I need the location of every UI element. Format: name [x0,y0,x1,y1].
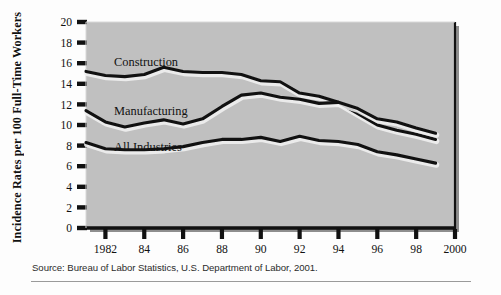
source-note: Source: Bureau of Labor Statistics, U.S.… [32,262,318,273]
chart-figure: Incidence Rates per 100 Full-Time Worker… [0,0,501,295]
x-tick-label: 2000 [443,243,466,256]
x-tick-label: 86 [177,243,189,256]
x-tick-label: 90 [255,243,267,256]
y-tick-label: 20 [60,16,72,29]
y-tick-label: 16 [60,57,72,70]
x-tick-label: 94 [333,243,345,256]
x-tick-mark [259,229,263,239]
x-tick-label: 98 [410,243,422,256]
y-tick-label: 10 [60,119,72,132]
y-axis-ticks: 02468101214161820 [60,16,87,235]
y-tick-label: 2 [66,202,72,215]
x-tick-mark [375,229,379,239]
y-tick-label: 18 [60,37,72,50]
x-axis-ticks: 198284868890929496982000 [94,229,467,256]
series-label-construction: Construction [114,55,178,69]
x-tick-mark [336,229,340,239]
y-tick-label: 0 [66,222,72,235]
y-tick-label: 12 [60,99,72,112]
y-tick-label: 8 [66,140,72,153]
x-tick-mark [142,229,146,239]
x-tick-label: 88 [216,243,228,256]
x-tick-label: 92 [294,243,306,256]
x-tick-mark [181,229,185,239]
source-divider [31,281,471,282]
y-tick-label: 14 [60,78,72,91]
x-tick-mark [103,229,107,239]
y-tick-label: 4 [66,181,72,194]
x-tick-label: 1982 [94,243,117,256]
series-label-all-industries: All Industries [114,140,182,154]
x-tick-mark [220,229,224,239]
series-label-manufacturing: Manufacturing [114,104,188,118]
x-tick-label: 84 [138,243,150,256]
x-tick-mark [453,229,457,239]
line-chart: 02468101214161820 1982848688909294969820… [0,0,501,295]
y-tick-label: 6 [66,160,72,173]
x-tick-mark [298,229,302,239]
x-tick-mark [414,229,418,239]
x-tick-label: 96 [372,243,384,256]
